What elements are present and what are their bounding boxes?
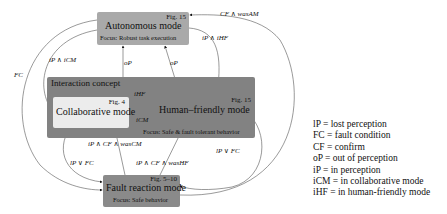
edge-label-ip-cf-washf: iP ∧ CF ∧ wasHF (136, 159, 189, 167)
autonomous-title: Autonomous mode (105, 20, 181, 31)
collaborative-title: Collaborative mode (56, 106, 135, 117)
autonomous-mode-node: Fig. 15 Autonomous mode Focus: Robust ta… (97, 12, 189, 45)
edge-label-cf-wasam: CF ∧ wasAM (220, 10, 259, 18)
edge-label-op-left: oP (124, 59, 132, 67)
edge-label-lp-fc-left: lP ∨ FC (70, 159, 94, 167)
legend: lP = lost perception FC = fault conditio… (313, 119, 430, 199)
fault-title: Fault reaction mode (106, 182, 186, 193)
human-friendly-focus: Focus: Safe & fault tolerant behavior (143, 128, 240, 135)
edge-label-ip-ihf: iP ∧ iHF (202, 34, 228, 42)
autonomous-focus: Focus: Robust task execution (100, 34, 176, 41)
edge-label-ip-cf-wascm: iP ∧ CF ∧ wasCM (88, 140, 142, 148)
human-friendly-title: Human–friendly mode (159, 104, 250, 115)
human-friendly-fig-ref: Fig. 15 (231, 96, 251, 104)
edge-label-ihf: iHF (134, 90, 145, 98)
edge-label-op-right: oP (170, 59, 178, 67)
edge-label-icm: iCM (136, 116, 148, 124)
edge-label-lp-fc-right: lP ∨ FC (216, 147, 240, 155)
legend-item: FC = fault condition (313, 130, 430, 141)
edge-label-ip-icm: iP ∧ iCM (49, 56, 76, 64)
legend-item: CF = confirm (313, 142, 430, 153)
legend-item: iCM = in collaborative mode (313, 176, 430, 187)
fault-reaction-mode-node: Fig. 5–10 Fault reaction mode Focus: Saf… (103, 175, 180, 207)
edge-label-fc: FC (14, 71, 23, 79)
legend-item: iHF = in human-friendly mode (313, 187, 430, 198)
concept-title: Interaction concept (51, 78, 120, 88)
legend-item: lP = lost perception (313, 119, 430, 130)
legend-item: oP = out of perception (313, 153, 430, 164)
legend-item: iP = in perception (313, 165, 430, 176)
collaborative-fig-ref: Fig. 4 (109, 98, 125, 106)
collaborative-mode-node: Fig. 4 Collaborative mode (53, 97, 129, 128)
fault-focus: Focus: Safe behavior (113, 196, 168, 203)
